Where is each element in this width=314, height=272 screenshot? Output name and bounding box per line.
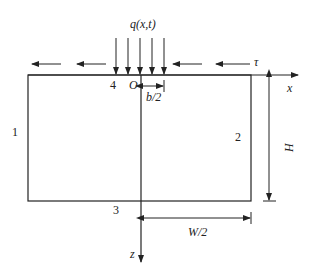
boundary-label-top: 4	[110, 78, 116, 92]
load-arrows	[116, 38, 164, 74]
boundary-label-right: 2	[235, 130, 241, 144]
x-axis-label: x	[286, 81, 293, 95]
half-width-label: W/2	[188, 225, 207, 239]
height-label: H	[282, 142, 296, 153]
domain-rectangle	[28, 75, 251, 201]
boundary-label-bottom: 3	[113, 203, 119, 217]
shear-label: τ	[254, 55, 259, 69]
diagram-canvas: q(x,t) τ O x z b/2 W/2 H 4 1 2 3	[0, 0, 314, 272]
origin-label: O	[129, 78, 138, 92]
z-axis-label: z	[129, 247, 135, 261]
boundary-label-left: 1	[12, 125, 18, 139]
load-label: q(x,t)	[130, 17, 156, 31]
half-load-width-label: b/2	[146, 90, 161, 104]
